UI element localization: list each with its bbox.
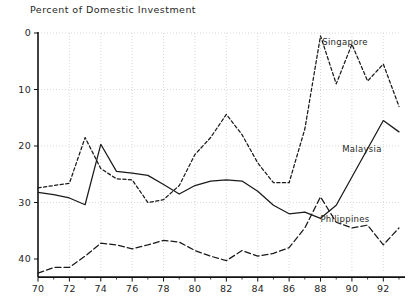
y-tick-labels-group: 403020100	[18, 27, 31, 264]
chart-container: Percent of Domestic Investment 403020100…	[0, 0, 409, 297]
y-tick-label: 40	[18, 253, 31, 264]
x-tick-label: 74	[94, 283, 107, 294]
y-tick-label: 0	[25, 27, 31, 38]
series-label-singapore: Singapore	[322, 37, 368, 47]
x-tick-label: 78	[157, 283, 170, 294]
x-tick-label: 70	[32, 283, 45, 294]
x-gridlines-group	[69, 33, 383, 273]
x-tick-label: 90	[346, 283, 359, 294]
line-chart-plot: 403020100 707274767880828486889092 Singa…	[0, 0, 409, 297]
x-tick-label: 86	[283, 283, 296, 294]
x-tick-label: 88	[314, 283, 327, 294]
x-tick-labels-group: 707274767880828486889092	[32, 283, 390, 294]
x-tick-label: 92	[377, 283, 390, 294]
x-tick-label: 84	[251, 283, 264, 294]
series-line-philippines	[38, 197, 399, 273]
x-tick-label: 76	[126, 283, 139, 294]
series-label-malaysia: Malaysia	[342, 144, 382, 154]
x-tick-label: 72	[63, 283, 76, 294]
series-line-malaysia	[38, 121, 399, 219]
x-tick-label: 80	[189, 283, 202, 294]
y-tick-label: 10	[18, 84, 31, 95]
series-label-philippines: Philippines	[320, 214, 369, 224]
axes-group	[38, 32, 405, 277]
tick-marks-group	[34, 33, 399, 282]
series-group	[38, 36, 399, 273]
y-tick-label: 30	[18, 197, 31, 208]
x-tick-label: 82	[220, 283, 233, 294]
y-tick-label: 20	[18, 140, 31, 151]
